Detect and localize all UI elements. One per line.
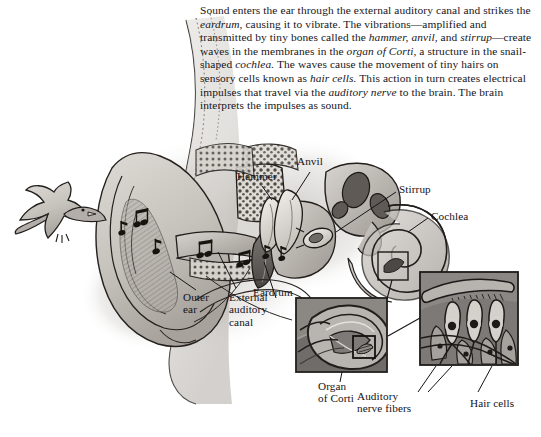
label-auditory-nerve-fibers: Auditory nerve fibers — [357, 390, 411, 415]
label-external-auditory-canal: External auditory canal — [229, 291, 268, 328]
label-cochlea: Cochlea — [431, 210, 468, 222]
label-hair-cells: Hair cells — [470, 397, 514, 409]
hair-cells-inset-art — [420, 272, 518, 365]
label-hammer: Hammer — [237, 170, 277, 182]
label-organ-of-corti: Organ of Corti — [318, 380, 354, 405]
leader-nerve-2 — [428, 366, 452, 392]
label-anvil: Anvil — [297, 155, 323, 167]
leader-inset-link — [388, 318, 420, 336]
label-stirrup: Stirrup — [399, 183, 431, 195]
leader-hair-cells — [478, 366, 492, 392]
illustration-page: Sound enters the ear through the externa… — [0, 0, 541, 437]
organ-of-corti-inset-art — [296, 298, 390, 372]
label-outer-ear: Outer ear — [183, 291, 209, 316]
leader-nerve-1 — [418, 366, 436, 392]
explanatory-caption: Sound enters the ear through the externa… — [200, 4, 532, 113]
